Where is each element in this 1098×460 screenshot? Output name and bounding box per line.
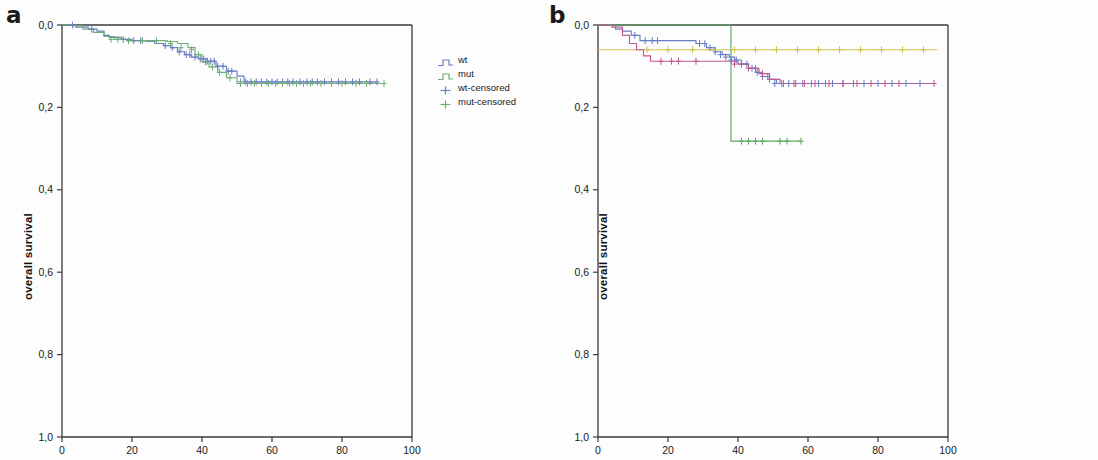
svg-text:0,4: 0,4 (574, 183, 589, 195)
panel-b: b overall survival 1,00,80,60,40,20,0020… (549, 0, 1098, 460)
svg-text:80: 80 (872, 444, 884, 456)
panel-a: a overall survival 1,00,80,60,40,20,0020… (0, 0, 549, 460)
step-line-icon (437, 54, 454, 65)
legend-label: mut-censored (458, 96, 516, 107)
svg-text:0,2: 0,2 (574, 101, 589, 113)
svg-text:0,8: 0,8 (38, 348, 53, 360)
axis-frame (598, 25, 948, 437)
y-axis-ticks: 1,00,80,60,40,20,0 (38, 19, 62, 443)
svg-text:0: 0 (59, 444, 65, 456)
y-axis-ticks: 1,00,80,60,40,20,0 (574, 19, 598, 443)
svg-text:1,0: 1,0 (574, 431, 589, 443)
svg-text:0,6: 0,6 (574, 266, 589, 278)
svg-text:20: 20 (662, 444, 674, 456)
censor-marks (70, 22, 380, 86)
svg-text:0,2: 0,2 (38, 101, 53, 113)
svg-text:0,8: 0,8 (574, 348, 589, 360)
panel-a-legend: wtmutwt-censoredmut-censored (437, 53, 516, 108)
survival-curve (598, 25, 934, 84)
svg-text:40: 40 (732, 444, 744, 456)
censor-marks (108, 36, 386, 87)
legend-label: wt-censored (458, 82, 510, 93)
svg-text:0,4: 0,4 (38, 183, 53, 195)
legend-label: wt (458, 54, 468, 65)
legend-label: mut (458, 68, 474, 79)
svg-text:60: 60 (802, 444, 814, 456)
svg-text:0,6: 0,6 (38, 266, 53, 278)
legend-item: wt-censored (437, 81, 516, 94)
x-axis-ticks: 020406080100 (595, 437, 957, 456)
svg-text:100: 100 (939, 444, 957, 456)
panel-b-plot: 1,00,80,60,40,20,0020406080100 (549, 0, 1098, 460)
step-line-icon (437, 68, 454, 79)
svg-text:20: 20 (126, 444, 138, 456)
axis-frame (62, 25, 412, 437)
svg-text:40: 40 (196, 444, 208, 456)
survival-curve (598, 25, 920, 84)
figure-container: a overall survival 1,00,80,60,40,20,0020… (0, 0, 1098, 460)
legend-item: mut (437, 67, 516, 80)
legend-item: mut-censored (437, 95, 516, 108)
censor-marker-icon (437, 82, 454, 93)
legend-item: wt (437, 53, 516, 66)
svg-text:60: 60 (266, 444, 278, 456)
censor-marks (658, 58, 936, 87)
svg-text:1,0: 1,0 (38, 431, 53, 443)
svg-text:0: 0 (595, 444, 601, 456)
svg-text:0,0: 0,0 (38, 19, 53, 31)
x-axis-ticks: 020406080100 (59, 437, 421, 456)
svg-text:0,0: 0,0 (574, 19, 589, 31)
censor-marker-icon (437, 96, 454, 107)
svg-text:100: 100 (403, 444, 421, 456)
svg-text:80: 80 (336, 444, 348, 456)
survival-curve (62, 25, 384, 84)
